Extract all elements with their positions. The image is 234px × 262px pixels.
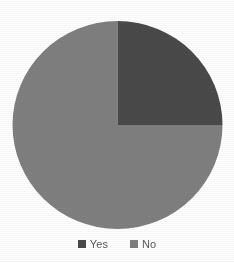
- legend-label-yes: Yes: [90, 239, 108, 250]
- pie-slice-yes[interactable]: [118, 21, 223, 125]
- legend-item-no[interactable]: No: [130, 239, 156, 250]
- legend-label-no: No: [142, 239, 156, 250]
- legend-square-marker-yes: [78, 240, 86, 248]
- chart-legend: Yes No: [0, 235, 234, 253]
- pie-graphic: [12, 21, 223, 229]
- pie-chart: Yes No: [0, 0, 234, 262]
- legend-square-marker-no: [130, 240, 138, 248]
- legend-item-yes[interactable]: Yes: [78, 239, 108, 250]
- pie-plot-area: [12, 21, 223, 229]
